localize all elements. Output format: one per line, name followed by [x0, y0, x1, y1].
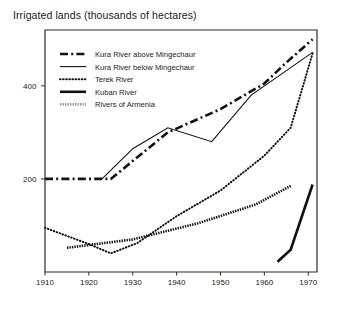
legend-label: Terek River	[95, 75, 134, 84]
y-tick-label: 200	[23, 175, 37, 184]
x-tick-label: 1930	[124, 278, 142, 287]
chart-figure: Irrigated lands (thousands of hectares) …	[0, 0, 340, 309]
x-tick-label: 1970	[299, 278, 317, 287]
legend-label: Kura River above Mingechaur	[95, 50, 196, 59]
x-tick-label: 1950	[212, 278, 230, 287]
legend-label: Rivers of Armenia	[95, 100, 156, 109]
series-line-4	[67, 186, 291, 248]
line-chart-plot: 1910192019301940195019601970200400 Kura …	[0, 0, 340, 309]
series-line-2	[45, 53, 313, 253]
series-line-0	[45, 39, 313, 179]
series-layer	[45, 39, 313, 261]
x-tick-label: 1960	[255, 278, 273, 287]
y-tick-label: 400	[23, 82, 37, 91]
x-tick-label: 1940	[168, 278, 186, 287]
series-line-3	[278, 185, 313, 262]
legend-label: Kura River below Mingechaur	[95, 63, 195, 72]
x-tick-label: 1920	[80, 278, 98, 287]
legend-label: Kuban River	[95, 88, 137, 97]
chart-legend: Kura River above MingechaurKura River be…	[60, 50, 196, 109]
x-tick-label: 1910	[36, 278, 54, 287]
